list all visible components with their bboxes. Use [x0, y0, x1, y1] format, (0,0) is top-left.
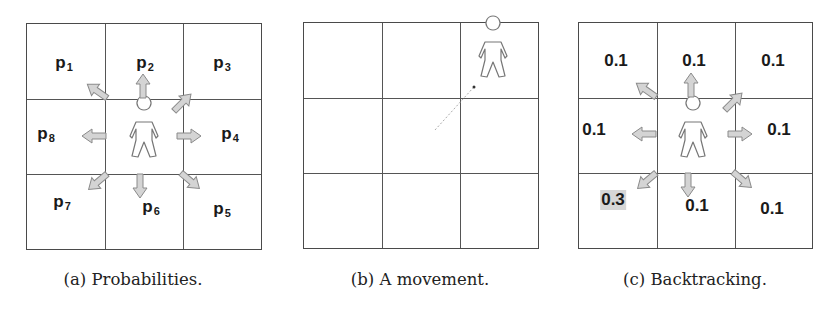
cell-value-bottom-right: 0.1 — [760, 199, 784, 219]
panel-b-movement: (b) A movement. — [277, 0, 557, 314]
trail-end-dot — [473, 86, 476, 89]
cell-label-p2: p2 — [136, 53, 154, 73]
arrow-down-icon — [681, 173, 695, 197]
arrow-up-icon — [136, 74, 150, 98]
cell-label-p1: p1 — [55, 53, 73, 73]
arrow-right-icon — [728, 127, 752, 141]
cell-value-middle-left: 0.1 — [582, 120, 606, 140]
cell-label-p8: p8 — [37, 124, 55, 144]
cell-value-top-left: 0.1 — [604, 51, 628, 71]
arrows-a — [0, 0, 280, 314]
arrow-down-right-icon — [729, 167, 756, 193]
cell-label-p5: p5 — [213, 199, 231, 219]
arrow-up-left-icon — [632, 78, 660, 103]
arrow-down-icon — [133, 174, 147, 198]
person-icon — [479, 16, 507, 77]
arrows-c — [552, 0, 832, 314]
arrow-up-icon — [684, 73, 698, 97]
arrow-down-left-icon — [84, 169, 111, 195]
arrow-up-right-icon — [169, 89, 196, 116]
cell-label-p3: p3 — [213, 53, 231, 73]
cell-label-p7: p7 — [53, 192, 71, 212]
movement-trail — [435, 88, 473, 130]
arrow-down-left-icon — [633, 168, 660, 194]
arrow-up-left-icon — [83, 79, 111, 104]
panel-c-backtracking: 0.1 0.1 0.1 0.1 0.1 0.1 0.3 0.1 (c) Back… — [552, 0, 832, 314]
cell-value-middle-right: 0.1 — [767, 120, 791, 140]
panel-a-probabilities: p1 p2 p3 p4 p5 p6 p7 p8 (a) Probabilitie… — [0, 0, 280, 314]
arrow-left-icon — [82, 129, 106, 143]
arrow-right-icon — [177, 129, 201, 143]
cell-value-top-center: 0.1 — [682, 51, 706, 71]
caption-a: (a) Probabilities. — [63, 270, 202, 289]
movement-b — [277, 0, 557, 314]
caption-b: (b) A movement. — [351, 270, 489, 289]
cell-value-bottom-left-highlighted: 0.3 — [600, 190, 626, 210]
arrow-left-icon — [632, 127, 656, 141]
arrow-up-right-icon — [720, 88, 747, 115]
person-icon — [130, 96, 158, 157]
cell-label-p4: p4 — [221, 124, 239, 144]
cell-value-top-right: 0.1 — [761, 51, 785, 71]
caption-c: (c) Backtracking. — [623, 270, 767, 289]
cell-value-bottom-center: 0.1 — [685, 196, 709, 216]
person-icon — [679, 96, 707, 157]
cell-label-p6: p6 — [142, 197, 160, 217]
arrow-down-right-icon — [177, 168, 204, 194]
